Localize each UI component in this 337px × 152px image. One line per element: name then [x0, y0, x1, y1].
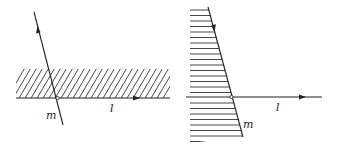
left-line-l-arrow-icon — [133, 96, 140, 101]
right-intersection-point — [230, 95, 233, 98]
left-intersection-point — [56, 96, 59, 99]
left-hatched-region — [6, 66, 182, 100]
right-label-l: l — [276, 101, 280, 114]
right-panel: m l — [186, 7, 322, 142]
right-line-m-arrow-icon — [211, 24, 216, 32]
right-hatched-region — [188, 10, 250, 142]
left-label-l: l — [110, 102, 114, 115]
diagram-canvas: m l — [0, 0, 337, 152]
left-panel: m l — [6, 12, 182, 125]
right-label-m: m — [243, 118, 253, 131]
right-line-l-arrow-icon — [299, 95, 306, 100]
left-label-m: m — [46, 109, 56, 122]
